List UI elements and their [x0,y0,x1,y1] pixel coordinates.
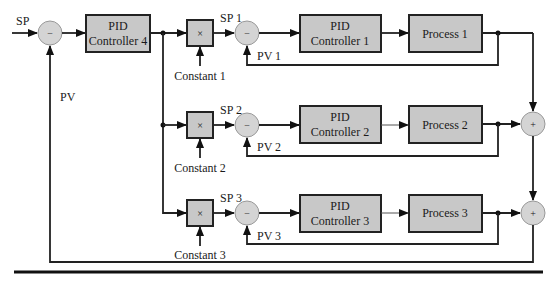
setpoint-input: SP [12,14,37,33]
svg-text:Controller 2: Controller 2 [311,125,369,139]
svg-text:×: × [197,120,203,131]
svg-text:−: − [47,28,53,39]
sp2-label: SP 2 [220,103,242,117]
loop-2: × Constant 2 SP 2 − PID Controller 2 Pro… [174,103,545,200]
sp1-label: SP 1 [220,11,242,25]
svg-text:Controller 3: Controller 3 [311,214,369,228]
svg-text:PID: PID [330,199,350,213]
svg-text:Controller 4: Controller 4 [89,34,147,48]
svg-text:PID: PID [108,19,128,33]
block-diagram: SP − PID Controller 4 × Constant 1 SP 1 … [0,0,557,281]
loop-3: × Constant 3 SP 3 − PID Controller 3 Pro… [174,191,545,262]
svg-text:PID: PID [330,19,350,33]
svg-text:Process 3: Process 3 [422,206,468,220]
loop-1: × Constant 1 SP 1 − PID Controller 1 Pro… [174,11,533,111]
constant-1-label: Constant 1 [174,69,226,83]
sp3-label: SP 3 [220,191,242,205]
pv1-label: PV 1 [257,49,281,63]
svg-text:×: × [197,28,203,39]
constant-2-label: Constant 2 [174,161,226,175]
pv-label: PV [60,90,76,104]
pid-controller-4-block: PID Controller 4 [86,15,150,52]
constant-3-label: Constant 3 [174,248,226,262]
svg-text:Process 2: Process 2 [422,118,468,132]
pv3-label: PV 3 [257,229,281,243]
svg-text:×: × [197,208,203,219]
svg-text:+: + [530,119,536,130]
svg-text:−: − [244,120,250,131]
pv2-label: PV 2 [257,140,281,154]
distribution-bus [163,33,186,213]
svg-text:−: − [244,28,250,39]
svg-text:−: − [244,208,250,219]
svg-text:Controller 1: Controller 1 [311,34,369,48]
svg-text:+: + [530,208,536,219]
svg-text:Process 1: Process 1 [422,27,468,41]
sp-label: SP [16,14,30,28]
svg-text:PID: PID [330,110,350,124]
master-summing-junction: − [38,21,62,45]
